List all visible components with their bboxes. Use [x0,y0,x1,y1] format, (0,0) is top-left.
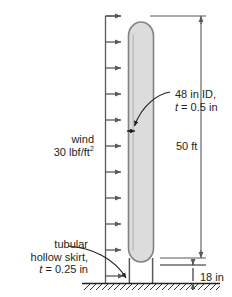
skirt-label-line2: hollow skirt, [4,251,88,264]
wind-load-label: wind 30 lbf/ft2 [18,133,94,158]
wind-pressure-exponent: 2 [90,144,94,153]
vessel-body [129,22,154,262]
wind-load-arrows [106,16,125,283]
vessel-wind-load-diagram: wind 30 lbf/ft2 48 in ID, t = 0.5 in 50 … [0,0,232,297]
diameter-label-line2: t = 0.5 in [175,101,232,114]
ground-line [82,284,220,291]
skirt-label: tubular hollow skirt, t = 0.25 in [4,238,88,276]
skirt-label-line1: tubular [4,238,88,251]
diameter-label: 48 in ID, t = 0.5 in [175,88,232,113]
height-dimension-50ft [150,16,206,258]
wind-label-line2: 30 lbf/ft2 [18,146,94,159]
wind-pressure-value: 30 lbf/ft [54,146,90,158]
skirt-height-dimension-label: 18 in [200,271,224,284]
diameter-label-line1: 48 in ID, [175,88,232,101]
height-dimension-label: 50 ft [176,140,197,153]
thickness-value: = 0.5 in [178,101,217,113]
skirt-thickness-value: = 0.25 in [42,263,88,275]
wind-label-line1: wind [18,133,94,146]
skirt-label-line3: t = 0.25 in [4,263,88,276]
